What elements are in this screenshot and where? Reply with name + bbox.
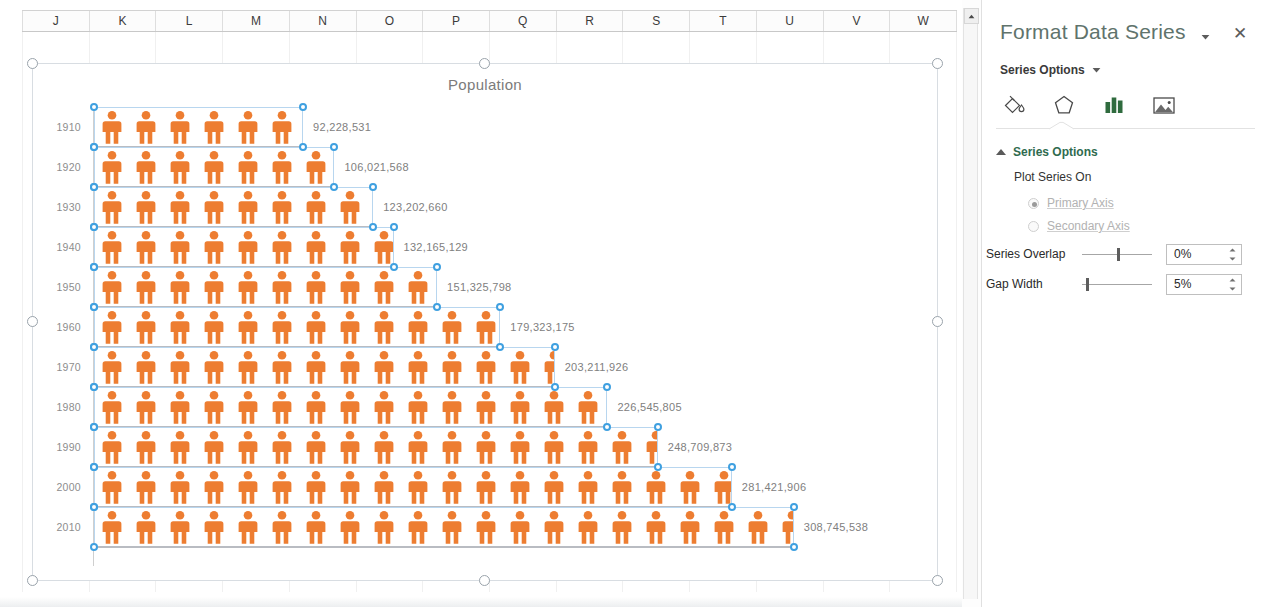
chart-resize-handle-bottom-left[interactable]	[27, 575, 38, 586]
gap-width-spinbox[interactable]: 5%	[1166, 274, 1242, 295]
data-point-1960[interactable]	[94, 307, 500, 347]
data-point-1910[interactable]	[94, 107, 303, 147]
series-overlap-spinbox[interactable]: 0%	[1166, 244, 1242, 265]
column-header-Q[interactable]: Q	[490, 11, 557, 31]
data-point-1980[interactable]	[94, 387, 607, 427]
slider-thumb[interactable]	[1117, 248, 1120, 261]
data-label-1970[interactable]: 203,211,926	[565, 361, 629, 373]
data-label-1990[interactable]: 248,709,873	[668, 441, 732, 453]
bar-row[interactable]: 132,165,129	[94, 227, 931, 267]
data-point-handle[interactable]	[299, 103, 307, 111]
data-point-handle[interactable]	[90, 383, 98, 391]
bar-row[interactable]: 308,745,538	[94, 507, 931, 547]
data-point-handle[interactable]	[90, 183, 98, 191]
data-point-1950[interactable]	[94, 267, 437, 307]
data-point-handle[interactable]	[433, 263, 441, 271]
data-label-1960[interactable]: 179,323,175	[510, 321, 574, 333]
data-point-handle[interactable]	[654, 423, 662, 431]
data-point-handle[interactable]	[790, 543, 798, 551]
fill-line-tab[interactable]	[996, 88, 1032, 122]
radio-secondary-axis[interactable]: Secondary Axis	[1028, 219, 1258, 233]
column-header-O[interactable]: O	[357, 11, 424, 31]
data-point-handle[interactable]	[90, 463, 98, 471]
bar-row[interactable]: 123,202,660	[94, 187, 931, 227]
column-header-P[interactable]: P	[423, 11, 490, 31]
data-label-2010[interactable]: 308,745,538	[804, 521, 868, 533]
column-header-L[interactable]: L	[156, 11, 223, 31]
data-point-1990[interactable]	[94, 427, 658, 467]
spinner-arrows[interactable]	[1227, 246, 1238, 264]
data-point-handle[interactable]	[390, 223, 398, 231]
data-point-handle[interactable]	[90, 423, 98, 431]
column-header-S[interactable]: S	[623, 11, 690, 31]
bar-row[interactable]: 248,709,873	[94, 427, 931, 467]
data-point-handle[interactable]	[603, 383, 611, 391]
column-header-U[interactable]: U	[757, 11, 824, 31]
data-point-handle[interactable]	[90, 263, 98, 271]
data-point-handle[interactable]	[90, 143, 98, 151]
chart-title[interactable]: Population	[33, 76, 937, 93]
bar-row[interactable]: 92,228,531	[94, 107, 931, 147]
data-label-1920[interactable]: 106,021,568	[344, 161, 408, 173]
data-point-handle[interactable]	[496, 303, 504, 311]
spinner-arrows[interactable]	[1227, 276, 1238, 294]
data-label-1940[interactable]: 132,165,129	[404, 241, 468, 253]
chart-resize-handle-bottom-right[interactable]	[932, 575, 943, 586]
data-label-1980[interactable]: 226,545,805	[617, 401, 681, 413]
data-point-2000[interactable]	[94, 467, 732, 507]
category-axis-labels[interactable]: 1910192019301940195019601970198019902000…	[47, 104, 87, 566]
chart-resize-handle-top-center[interactable]	[479, 58, 490, 69]
data-point-handle[interactable]	[790, 503, 798, 511]
chart-resize-handle-middle-right[interactable]	[932, 316, 943, 327]
column-header-T[interactable]: T	[690, 11, 757, 31]
bar-row[interactable]: 179,323,175	[94, 307, 931, 347]
data-point-2010[interactable]	[94, 507, 794, 547]
data-label-1950[interactable]: 151,325,798	[447, 281, 511, 293]
radio-primary-axis[interactable]: Primary Axis	[1028, 196, 1258, 210]
data-point-1970[interactable]	[94, 347, 555, 387]
bar-row[interactable]: 106,021,568	[94, 147, 931, 187]
data-point-handle[interactable]	[330, 143, 338, 151]
data-point-handle[interactable]	[90, 503, 98, 511]
data-point-handle[interactable]	[90, 303, 98, 311]
series-options-section-header[interactable]: Series Options	[996, 145, 1258, 159]
effects-tab[interactable]	[1046, 88, 1082, 122]
bar-row[interactable]: 203,211,926	[94, 347, 931, 387]
series-options-dropdown[interactable]: Series Options	[1000, 63, 1101, 77]
bar-row[interactable]: 281,421,906	[94, 467, 931, 507]
pane-close-button[interactable]: ✕	[1230, 24, 1250, 44]
data-point-1930[interactable]	[94, 187, 373, 227]
slider-thumb[interactable]	[1086, 278, 1089, 291]
data-point-handle[interactable]	[390, 263, 398, 271]
column-header-N[interactable]: N	[290, 11, 357, 31]
data-point-handle[interactable]	[728, 463, 736, 471]
data-point-handle[interactable]	[654, 463, 662, 471]
data-label-1910[interactable]: 92,228,531	[313, 121, 371, 133]
column-header-V[interactable]: V	[824, 11, 891, 31]
data-point-handle[interactable]	[551, 343, 559, 351]
data-point-handle[interactable]	[90, 223, 98, 231]
chart-resize-handle-middle-left[interactable]	[27, 316, 38, 327]
data-point-handle[interactable]	[551, 383, 559, 391]
column-header-K[interactable]: K	[90, 11, 157, 31]
data-point-handle[interactable]	[90, 543, 98, 551]
column-header-R[interactable]: R	[557, 11, 624, 31]
chart-resize-handle-bottom-center[interactable]	[479, 575, 490, 586]
series-overlap-slider[interactable]	[1078, 244, 1156, 264]
vertical-scrollbar[interactable]	[963, 8, 978, 599]
picture-tab[interactable]	[1146, 88, 1182, 122]
data-label-2000[interactable]: 281,421,906	[742, 481, 806, 493]
gap-width-slider[interactable]	[1078, 274, 1156, 294]
scroll-up-button[interactable]	[964, 8, 979, 24]
bar-row[interactable]: 226,545,805	[94, 387, 931, 427]
data-point-handle[interactable]	[90, 103, 98, 111]
data-point-handle[interactable]	[728, 503, 736, 511]
column-header-W[interactable]: W	[890, 11, 957, 31]
data-point-handle[interactable]	[433, 303, 441, 311]
data-point-1940[interactable]	[94, 227, 394, 267]
data-label-1930[interactable]: 123,202,660	[383, 201, 447, 213]
data-point-1920[interactable]	[94, 147, 334, 187]
data-point-handle[interactable]	[90, 343, 98, 351]
column-header-M[interactable]: M	[223, 11, 290, 31]
series-options-tab[interactable]	[1096, 88, 1132, 122]
